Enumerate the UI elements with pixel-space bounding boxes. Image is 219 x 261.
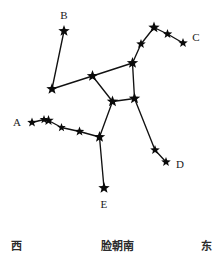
star-point [148,22,159,33]
star-point [46,83,57,94]
constellation-lines [32,28,183,189]
star-c [178,38,188,47]
constellation-line [100,137,105,188]
star-label-d: D [176,159,184,170]
compass-label-east: 东 [201,241,212,252]
star-a [27,118,37,127]
star-point [57,123,66,131]
star-label-a: A [13,117,21,128]
star-label-b: B [60,10,68,21]
constellation-line [133,63,135,99]
constellation-diagram: BCADE 西脸朝南东 [0,0,219,261]
compass-label-face-south: 脸朝南 [101,241,134,252]
star-map-canvas [0,0,219,261]
star-label-c: C [192,32,200,43]
constellation-line [93,63,133,76]
star-point [75,127,85,136]
compass-label-west: 西 [11,241,22,252]
constellation-line [52,76,93,89]
constellation-line [52,31,64,89]
constellation-stars [27,22,188,193]
star-point [129,93,140,104]
star-label-e: E [101,199,108,210]
constellation-line [135,99,156,151]
star-point [87,70,98,81]
constellation-line [100,102,113,138]
star-e [98,182,109,193]
